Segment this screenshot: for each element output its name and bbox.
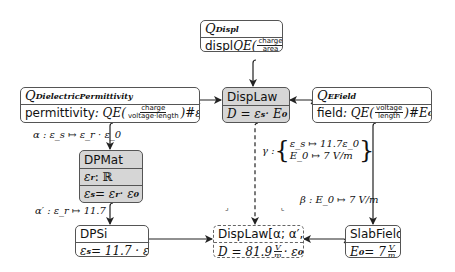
node-title: DispLaw[α; α′, β]	[214, 226, 303, 242]
node-title: QEField	[313, 88, 431, 104]
edge-slabfield-to-instance	[304, 239, 346, 243]
node-slabfield[interactable]: SlabField E0 = 7Vm	[345, 225, 401, 258]
edge-qefield-to-displaw	[290, 100, 313, 104]
node-q-efield[interactable]: QEField field : QE(voltagelength)#E0	[312, 87, 432, 123]
node-title: QDispl	[201, 21, 282, 37]
node-equation: εs = εr · ε0	[80, 185, 142, 202]
node-body: permittivity : QE(chargevoltage·length)#…	[21, 104, 199, 121]
right-brace: }	[359, 138, 374, 162]
node-title: SlabField	[346, 226, 400, 242]
pullback-mark-right: ⌞	[281, 203, 285, 212]
edge-gamma	[255, 123, 258, 224]
unit-fraction: chargevoltage·length	[127, 105, 180, 120]
node-field: εr : ℝ	[80, 168, 142, 185]
pullback-mark-left: ⌟	[225, 203, 229, 212]
node-equation: D = εs · E0	[223, 105, 289, 122]
node-dpsi[interactable]: DPSi εs = 11.7 · ε0	[75, 225, 149, 257]
unit-fraction: Vm	[387, 244, 397, 258]
node-displaw[interactable]: DispLaw D = εs · E0	[222, 87, 290, 123]
left-brace: {	[275, 138, 290, 162]
unit-fraction: Vm	[273, 244, 283, 258]
node-equation: E0 = 7Vm	[346, 242, 400, 258]
node-title: DPMat	[80, 151, 142, 168]
edge-alpha-prime	[110, 203, 113, 224]
edge-label-gamma: γ : { ε_s ↦ 11.7ε_0 E_0 ↦ 7 V/m }	[262, 138, 374, 162]
node-equation: D = 81.9Vm · ε0	[214, 242, 303, 258]
node-title: QDielectricPermittivity	[21, 88, 199, 104]
node-q-dielectric-permittivity[interactable]: QDielectricPermittivity permittivity : Q…	[20, 87, 200, 123]
edge-dpsi-to-instance	[148, 239, 213, 243]
gamma-mappings: ε_s ↦ 11.7ε_0 E_0 ↦ 7 V/m	[290, 138, 359, 162]
node-title: DPSi	[76, 226, 148, 242]
node-body: displQE(chargearea)#D	[201, 37, 282, 52]
edge-label-alpha: α : ε_s ↦ ε_r · ε_0	[33, 129, 121, 140]
node-body: field : QE(voltagelength)#E0	[313, 104, 431, 121]
edge-qdielectric-to-displaw	[199, 100, 222, 104]
unit-fraction: chargearea	[257, 38, 283, 52]
node-title: DispLaw	[223, 88, 289, 105]
node-q-displ[interactable]: QDispl displQE(chargearea)#D	[200, 20, 283, 52]
gamma-name: γ :	[262, 145, 275, 156]
node-dpmat[interactable]: DPMat εr : ℝ εs = εr · ε0	[79, 150, 143, 203]
edge-label-beta: β : E_0 ↦ 7 V/m	[300, 194, 379, 205]
node-equation: εs = 11.7 · ε0	[76, 242, 148, 257]
unit-fraction: voltagelength	[375, 105, 403, 120]
edge-label-alpha-prime: α′ : ε_r ↦ 11.7	[35, 205, 106, 216]
edge-qdispl-to-displaw	[253, 60, 256, 86]
node-displaw-instance[interactable]: DispLaw[α; α′, β] D = 81.9Vm · ε0	[213, 225, 304, 258]
